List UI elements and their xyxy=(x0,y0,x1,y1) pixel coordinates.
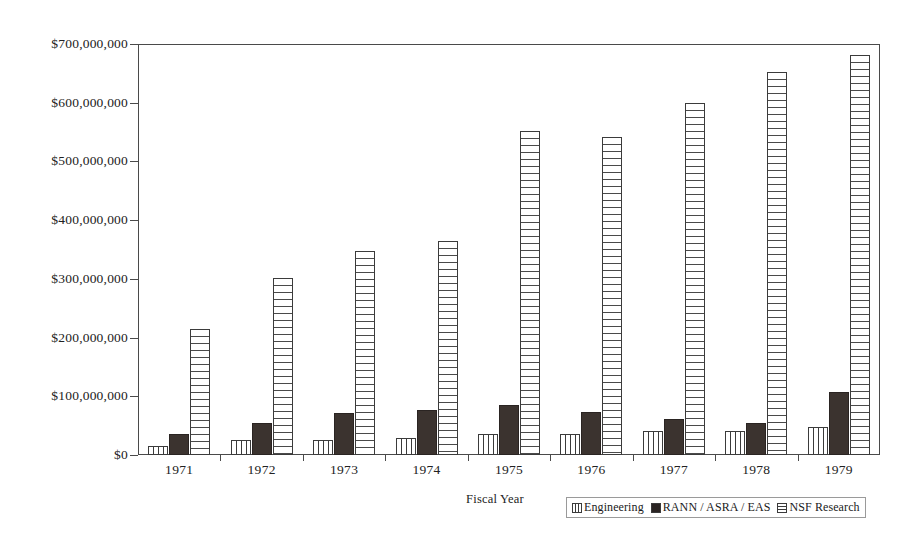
x-axis: 197119721973197419751976197719781979 xyxy=(138,462,880,484)
x-tick-mark xyxy=(715,455,716,461)
bar xyxy=(643,431,663,455)
y-tick-mark xyxy=(130,338,138,339)
y-tick-label: $100,000,000 xyxy=(10,389,128,403)
bar xyxy=(725,431,745,455)
bar xyxy=(520,131,540,455)
x-tick-label: 1974 xyxy=(385,462,467,478)
chart-legend: EngineeringRANN / ASRA / EASNSF Research xyxy=(566,497,866,518)
legend-label: Engineering xyxy=(584,500,644,515)
y-tick-label: $200,000,000 xyxy=(10,331,128,345)
bar-chart-figure: $0$100,000,000$200,000,000$300,000,000$4… xyxy=(0,0,914,546)
bar xyxy=(169,434,189,455)
y-tick-label: $400,000,000 xyxy=(10,213,128,227)
legend-item: NSF Research xyxy=(777,500,859,515)
y-tick-mark xyxy=(130,161,138,162)
bar xyxy=(664,419,684,455)
plot-area xyxy=(138,44,880,455)
y-axis: $0$100,000,000$200,000,000$300,000,000$4… xyxy=(0,0,128,546)
bar xyxy=(499,405,519,455)
bar xyxy=(767,72,787,455)
legend-swatch-icon xyxy=(777,503,787,513)
x-tick-label: 1973 xyxy=(303,462,385,478)
bar xyxy=(148,446,168,455)
x-tick-label: 1977 xyxy=(633,462,715,478)
y-tick-mark xyxy=(130,279,138,280)
x-tick-mark xyxy=(550,455,551,461)
x-tick-label: 1979 xyxy=(798,462,880,478)
bar-group xyxy=(303,44,385,455)
bar-group xyxy=(550,44,632,455)
x-tick-mark xyxy=(303,455,304,461)
x-tick-mark xyxy=(220,455,221,461)
x-tick-label: 1972 xyxy=(220,462,302,478)
x-tick-mark xyxy=(798,455,799,461)
y-tick-mark xyxy=(130,44,138,45)
x-tick-label: 1975 xyxy=(468,462,550,478)
bar-group xyxy=(220,44,302,455)
bar xyxy=(313,440,333,455)
y-tick-label: $600,000,000 xyxy=(10,96,128,110)
bar xyxy=(438,241,458,455)
legend-swatch-icon xyxy=(572,503,582,513)
bar xyxy=(417,410,437,455)
bar-group xyxy=(138,44,220,455)
bar-group xyxy=(798,44,880,455)
bar xyxy=(850,55,870,455)
legend-item: RANN / ASRA / EAS xyxy=(651,500,771,515)
y-tick-mark xyxy=(130,220,138,221)
bar-group xyxy=(715,44,797,455)
bar xyxy=(560,434,580,455)
y-tick-mark xyxy=(130,103,138,104)
bar xyxy=(231,440,251,455)
x-tick-mark xyxy=(468,455,469,461)
bar xyxy=(581,412,601,455)
bar xyxy=(355,251,375,455)
x-axis-title: Fiscal Year xyxy=(430,492,560,507)
legend-label: NSF Research xyxy=(789,500,859,515)
bar xyxy=(808,427,828,455)
x-tick-mark xyxy=(633,455,634,461)
x-tick-label: 1976 xyxy=(550,462,632,478)
legend-label: RANN / ASRA / EAS xyxy=(663,500,771,515)
legend-item: Engineering xyxy=(572,500,644,515)
bar-group xyxy=(385,44,467,455)
bar xyxy=(190,329,210,455)
y-tick-label: $500,000,000 xyxy=(10,154,128,168)
y-tick-mark xyxy=(130,396,138,397)
y-tick-label: $300,000,000 xyxy=(10,272,128,286)
y-tick-label: $0 xyxy=(10,448,128,462)
y-tick-mark xyxy=(130,455,138,456)
bar xyxy=(685,103,705,455)
bar xyxy=(334,413,354,455)
bar xyxy=(396,438,416,455)
bar-group xyxy=(468,44,550,455)
legend-swatch-icon xyxy=(651,503,661,513)
bar xyxy=(273,278,293,455)
x-tick-label: 1978 xyxy=(715,462,797,478)
bar xyxy=(602,137,622,455)
bar xyxy=(746,423,766,455)
bar xyxy=(829,392,849,455)
y-tick-label: $700,000,000 xyxy=(10,37,128,51)
x-tick-label: 1971 xyxy=(138,462,220,478)
x-tick-mark xyxy=(385,455,386,461)
bar xyxy=(478,434,498,455)
bar xyxy=(252,423,272,455)
bar-group xyxy=(633,44,715,455)
